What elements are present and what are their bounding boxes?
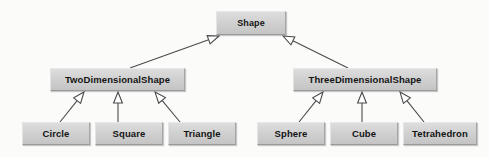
generalization-edge-cube-to-threed	[358, 92, 367, 122]
class-node-twod[interactable]: TwoDimensionalShape	[50, 68, 185, 91]
inheritance-arrowhead-icon	[207, 36, 219, 44]
edge-line	[299, 101, 316, 122]
edge-line	[293, 41, 348, 68]
inheritance-arrowhead-icon	[358, 92, 367, 103]
class-node-label: Sphere	[275, 129, 308, 139]
class-node-shape[interactable]: Shape	[216, 11, 286, 35]
class-hierarchy-diagram: ShapeTwoDimensionalShapeThreeDimensional…	[0, 0, 489, 157]
edge-line	[130, 40, 209, 68]
class-node-label: Circle	[42, 129, 69, 139]
class-node-threed[interactable]: ThreeDimensionalShape	[293, 68, 437, 91]
generalization-edge-tetrahedron-to-threed	[400, 92, 424, 122]
edge-line	[60, 101, 77, 122]
class-node-triangle[interactable]: Triangle	[168, 122, 236, 145]
edge-line	[162, 100, 180, 122]
inheritance-arrowhead-icon	[400, 92, 410, 103]
class-node-label: Square	[113, 129, 146, 139]
class-node-circle[interactable]: Circle	[22, 122, 90, 145]
inheritance-arrowhead-icon	[155, 92, 165, 103]
generalization-edge-square-to-twod	[114, 92, 123, 122]
class-node-label: Cube	[352, 129, 376, 139]
inheritance-arrowhead-icon	[283, 36, 295, 45]
inheritance-arrowhead-icon	[313, 92, 323, 103]
class-node-label: Triangle	[183, 129, 220, 139]
class-node-cube[interactable]: Cube	[330, 122, 398, 145]
generalization-edge-twod-to-shape	[130, 36, 219, 68]
class-node-square[interactable]: Square	[95, 122, 163, 145]
inheritance-arrowhead-icon	[114, 92, 123, 103]
class-node-sphere[interactable]: Sphere	[257, 122, 325, 145]
class-node-label: Tetrahedron	[412, 129, 468, 139]
generalization-edge-circle-to-twod	[60, 92, 84, 122]
generalization-edge-threed-to-shape	[283, 36, 348, 68]
class-node-label: Shape	[237, 19, 265, 28]
class-node-label: ThreeDimensionalShape	[309, 75, 422, 85]
edge-line	[407, 101, 424, 122]
generalization-edge-sphere-to-threed	[299, 92, 323, 122]
class-node-label: TwoDimensionalShape	[65, 75, 170, 85]
inheritance-arrowhead-icon	[74, 92, 84, 103]
generalization-edge-triangle-to-twod	[155, 92, 180, 122]
class-node-tetrahedron[interactable]: Tetrahedron	[403, 122, 477, 145]
